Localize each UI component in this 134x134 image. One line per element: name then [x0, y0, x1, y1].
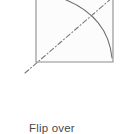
- origami-step-figure: Flip over: [0, 0, 134, 134]
- square-sheet-shape: [36, 0, 113, 62]
- fold-diagram: [0, 0, 134, 134]
